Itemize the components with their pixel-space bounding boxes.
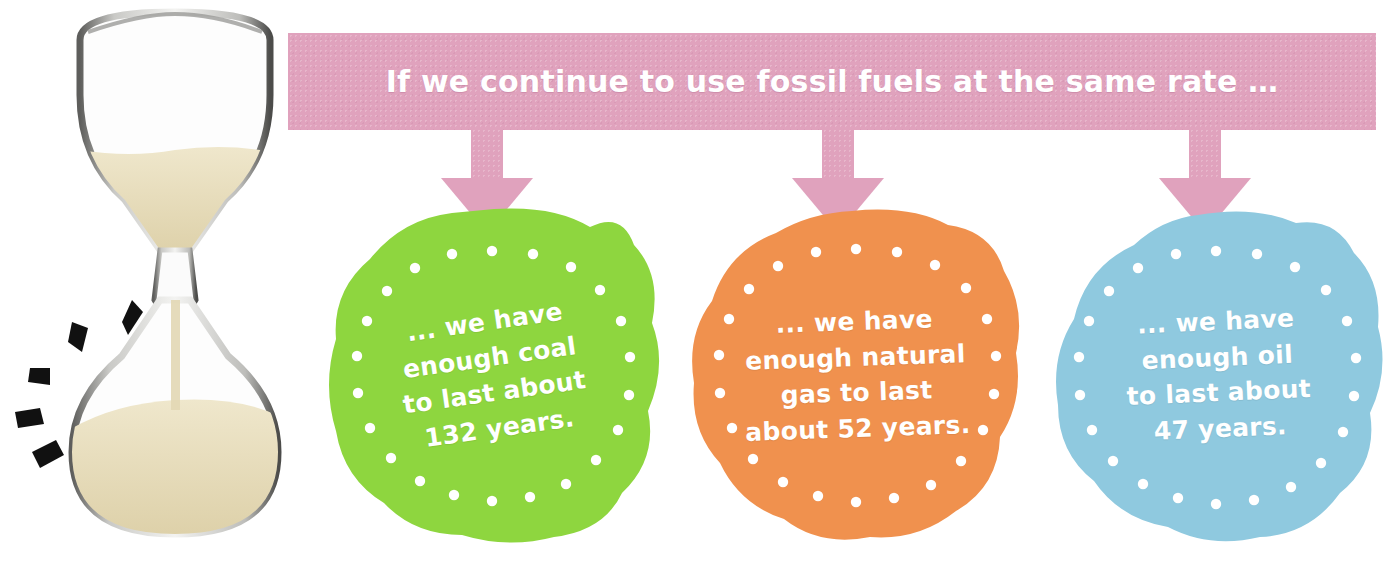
- bubble-oil-text: ... we have enough oil to last about 47 …: [1086, 298, 1350, 451]
- arrow-shaft: [1189, 128, 1221, 183]
- banner: If we continue to use fossil fuels at th…: [288, 33, 1376, 130]
- bubble-oil[interactable]: ... we have enough oil to last about 47 …: [1048, 205, 1388, 545]
- bubble-gas[interactable]: ... we have enough natural gas to last a…: [686, 205, 1026, 545]
- infographic-canvas: If we continue to use fossil fuels at th…: [0, 0, 1389, 569]
- bubble-coal[interactable]: ... we have enough coal to last about 13…: [322, 205, 662, 545]
- arrow-shaft: [471, 128, 503, 183]
- hourglass-icon: [10, 0, 340, 569]
- bubble-gas-text: ... we have enough natural gas to last a…: [724, 300, 987, 451]
- banner-title: If we continue to use fossil fuels at th…: [288, 33, 1376, 130]
- arrow-shaft: [822, 128, 854, 183]
